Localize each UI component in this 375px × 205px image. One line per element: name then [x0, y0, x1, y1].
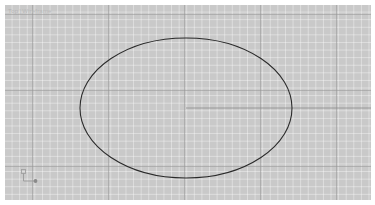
- grid-major-lines: [5, 5, 371, 200]
- grid-minor-lines: [5, 5, 371, 200]
- world-coordinate-axes-icon: [18, 166, 44, 188]
- cad-application-window: Top]Wireframe: [0, 0, 375, 205]
- drawing-geometry-layer: [5, 5, 371, 200]
- viewport-label[interactable]: Top]Wireframe: [8, 7, 52, 15]
- viewport-label-separator: ]: [19, 8, 21, 14]
- ellipse-outline[interactable]: [80, 38, 292, 178]
- viewport-label-mode: Wireframe: [22, 8, 51, 14]
- drawing-viewport[interactable]: Top]Wireframe: [5, 5, 371, 200]
- origin-point-icon: [34, 179, 38, 183]
- viewport-label-view: Top: [8, 8, 18, 14]
- axis-y-tick-icon: [22, 170, 26, 174]
